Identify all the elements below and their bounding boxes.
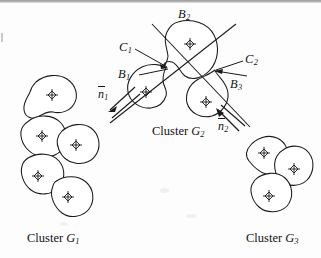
normal-vector-n1-head [108, 106, 117, 112]
vector-overbar-n1 [98, 86, 105, 87]
label-n1: n1 [98, 88, 108, 102]
scan-speck [60, 222, 68, 226]
label-b1: B1 [118, 68, 130, 83]
label-b3: B3 [230, 78, 242, 93]
normal-vector-n1-shaft-b [112, 94, 140, 118]
cluster-g1-shapes [21, 75, 99, 216]
label-n2: n2 [218, 120, 228, 134]
vector-overbar-n2 [218, 118, 225, 119]
label-c1: C1 [119, 41, 132, 56]
cluster-label-g2: Cluster G2 [152, 125, 204, 140]
leader-line-c2-b [216, 71, 247, 76]
leader-line-c2 [216, 61, 243, 70]
blob-g3-3 [251, 173, 292, 211]
cluster-g3-shapes [246, 136, 312, 211]
scan-speck [160, 188, 169, 193]
scan-speck [186, 214, 197, 218]
label-c2: C2 [245, 53, 258, 68]
cluster-label-g3: Cluster G3 [246, 232, 298, 247]
cluster-g2-shapes [128, 21, 228, 117]
cluster-label-g1: Cluster G1 [27, 232, 79, 247]
figure-canvas: B2 C1 C2 B1 B3 n1 n2 Cluster G2 Cluster … [0, 0, 321, 258]
label-b2: B2 [178, 8, 190, 23]
